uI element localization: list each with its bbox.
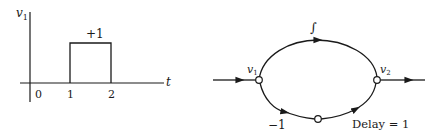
node-v1 bbox=[256, 77, 263, 84]
pulse-amplitude-label: +1 bbox=[86, 27, 104, 41]
tick-0: 0 bbox=[35, 88, 42, 101]
pulse-plot: v1 t 0 1 2 +1 bbox=[16, 6, 171, 102]
node-v2 bbox=[374, 77, 381, 84]
upper-branch-tail bbox=[316, 40, 377, 77]
x-axis-label: t bbox=[166, 75, 171, 89]
gain-label: −1 bbox=[268, 118, 286, 132]
pulse-waveform bbox=[70, 43, 111, 83]
flow-graph: v1 v2 ∫ −1 Delay = 1 bbox=[213, 20, 425, 132]
node-v2-label: v2 bbox=[380, 63, 391, 77]
tick-1: 1 bbox=[67, 88, 74, 101]
integral-label: ∫ bbox=[310, 20, 317, 35]
upper-branch-integrator bbox=[259, 40, 318, 80]
tick-2: 2 bbox=[108, 88, 115, 101]
lower-branch-gain bbox=[260, 83, 285, 112]
y-axis-label: v1 bbox=[16, 6, 28, 22]
node-v1-label: v1 bbox=[247, 63, 258, 77]
lower-branch-gain-tail bbox=[283, 111, 315, 119]
node-delay bbox=[315, 116, 322, 123]
lower-branch-delay bbox=[321, 109, 356, 119]
figure: v1 t 0 1 2 +1 v1 v2 ∫ −1 Delay = 1 bbox=[0, 0, 442, 132]
lower-branch-delay-tail bbox=[354, 83, 376, 110]
delay-label: Delay = 1 bbox=[352, 117, 409, 131]
